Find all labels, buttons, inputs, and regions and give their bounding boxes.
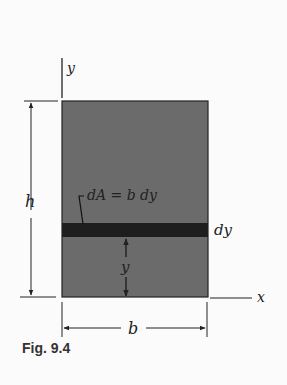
height-label: h: [25, 192, 35, 211]
strip-thickness-label: dy: [214, 221, 233, 239]
figure-caption: Fig. 9.4: [22, 340, 70, 356]
differential-strip: [62, 223, 208, 237]
area-element-label: dA = b dy: [87, 187, 158, 203]
x-axis-label: x: [257, 289, 265, 305]
width-label: b: [128, 319, 138, 338]
area-moment-diagram: y dA = b dy dy y h x b: [0, 0, 287, 385]
strip-distance-label: y: [120, 258, 130, 276]
y-axis-label: y: [66, 60, 76, 76]
